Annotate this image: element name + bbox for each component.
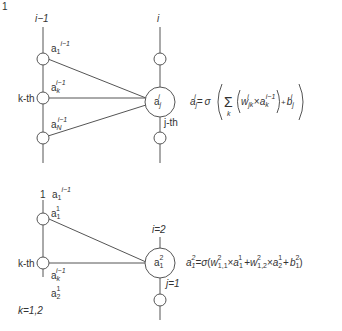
connection-bottom-1 — [49, 219, 146, 262]
big-paren-open — [218, 84, 222, 120]
neural-network-diagram: 1 i−1 i a1i−1 aki−1 k-th aNi−1 — [0, 0, 342, 331]
label-bottom-target: a12 — [154, 254, 164, 269]
small-paren-open — [238, 90, 241, 113]
eq-lhs: aji=σ — [190, 93, 212, 109]
sum-symbol: Σ — [224, 94, 233, 110]
label-a1: a1i−1 — [51, 40, 70, 55]
bottom-panel: 1 i=2 a1i−1 a11 k-th aki−1 a21 k=1,2 — [18, 186, 303, 320]
layer-label-1: 1 — [40, 189, 46, 200]
label-bottom-k-th: k-th — [18, 258, 35, 269]
node-ak — [37, 92, 49, 104]
node-bottom-right — [154, 294, 166, 306]
label-j-1: j=1 — [164, 278, 180, 289]
equation-specific: a12=σ(w1,12×a11+w1,22×a21+b12) — [186, 254, 303, 269]
figure-label: 1 — [2, 1, 8, 12]
eq-bias: +bji — [281, 93, 294, 109]
label-j-th: j-th — [163, 117, 178, 128]
small-paren-close — [277, 90, 280, 113]
big-paren-close — [299, 84, 303, 120]
node-a1 — [37, 53, 49, 65]
node-aN — [37, 132, 49, 144]
eq-term: wjki×aki−1 — [241, 93, 275, 109]
label-k-range: k=1,2 — [18, 305, 43, 316]
top-panel: i−1 i a1i−1 aki−1 k-th aNi−1 aji j-th — [18, 13, 303, 163]
layer-label-i: i — [157, 13, 160, 24]
sum-sub: k — [227, 110, 231, 117]
node-right-bottom — [154, 132, 166, 144]
layer-label-i-minus-1: i−1 — [35, 13, 49, 24]
label-ak: aki−1 — [51, 79, 66, 94]
label-bottom-a1-1: a11 — [51, 205, 61, 220]
label-bottom-a1-im1: a1i−1 — [52, 186, 71, 201]
node-bottom-a1 — [37, 213, 49, 225]
layer-label-i-2: i=2 — [152, 224, 166, 235]
label-k-th: k-th — [18, 93, 35, 104]
label-bottom-ak: aki−1 — [51, 267, 66, 282]
node-right-top — [154, 53, 166, 65]
label-aN: aNi−1 — [51, 116, 67, 131]
label-bottom-a2-1: a21 — [51, 285, 61, 300]
equation-general: aji=σ Σ k wjki×aki−1 +bji — [190, 84, 303, 120]
node-bottom-ak — [37, 257, 49, 269]
